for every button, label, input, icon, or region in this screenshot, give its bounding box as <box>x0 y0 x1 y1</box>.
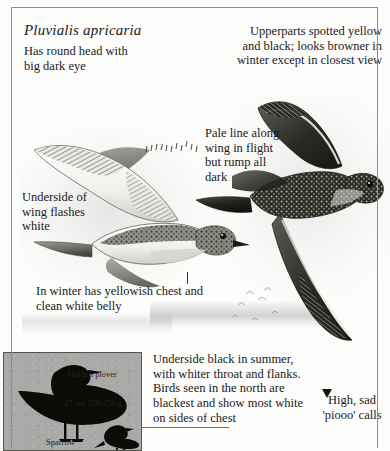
page-frame-border <box>11 7 378 448</box>
field-guide-plate-page: Pluvialis apricaria Has round head with … <box>0 0 390 451</box>
